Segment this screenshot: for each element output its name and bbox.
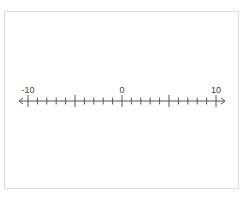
number-line: -10010	[0, 0, 246, 197]
tick-label: -10	[21, 85, 34, 95]
ticks	[28, 95, 216, 107]
tick-labels: -10010	[21, 85, 221, 95]
tick-label: 0	[119, 85, 124, 95]
tick-label: 10	[211, 85, 221, 95]
